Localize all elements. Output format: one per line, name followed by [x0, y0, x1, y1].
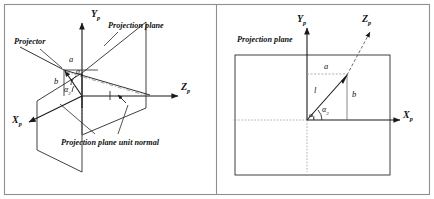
figure-vector-graphics: [0, 0, 434, 199]
outer-frame: [5, 5, 430, 195]
left-angle-label-1: α1: [76, 68, 83, 79]
right-segment-label-b: b: [352, 90, 356, 99]
right-axis-label-zp: Zp: [362, 14, 371, 26]
figure-container: Yp Zp Xp Projection plane Projector Proj…: [0, 0, 434, 199]
left-axis-label-xp: Xp: [12, 115, 22, 127]
right-segment-label-a: a: [324, 62, 328, 71]
right-angle-label-1: α1: [309, 112, 315, 121]
leader-projector: [40, 49, 62, 68]
left-axis-label-zp: Zp: [181, 82, 190, 94]
unit-normal-vector-left: [110, 91, 126, 103]
left-angle-label-2: α2: [64, 86, 71, 97]
left-label-projector: Projector: [14, 38, 45, 46]
right-angle-label-2: α2: [322, 106, 329, 117]
right-panel-graphics: [233, 28, 400, 175]
right-axis-label-xp: Xp: [403, 110, 413, 122]
axis-zp-right-dashed: [347, 32, 370, 75]
left-axis-label-yp: Yp: [91, 9, 100, 21]
projection-plane-quad-upper: [82, 22, 146, 135]
left-segment-label-b: b: [54, 77, 58, 86]
left-label-unit-normal: Projection plane unit normal: [61, 139, 159, 147]
left-label-projection-plane: Projection plane: [108, 22, 164, 30]
right-axis-label-yp: Yp: [297, 14, 306, 26]
leader-projection-plane-left: [104, 32, 118, 46]
right-segment-label-l: l: [314, 86, 316, 95]
leader-unit-normal-2: [60, 104, 95, 134]
angle-arc-2-left: [72, 86, 74, 92]
projection-plane-quad-left: [37, 73, 82, 172]
left-segment-label-a: a: [69, 55, 73, 64]
right-label-projection-plane: Projection plane: [237, 36, 293, 44]
